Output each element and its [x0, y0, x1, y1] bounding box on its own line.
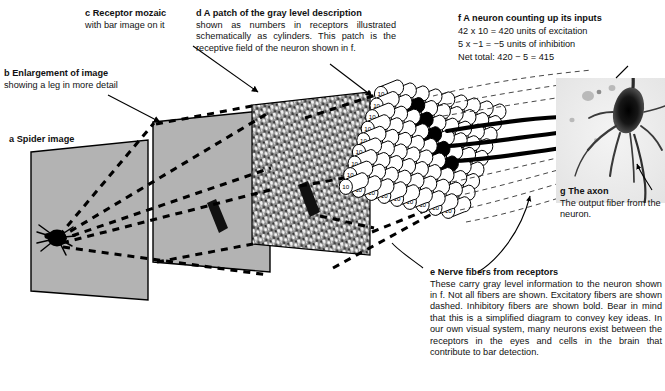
caption-e: e Nerve fibers from receptors These carr…: [430, 267, 662, 358]
caption-d: d A patch of the gray level description …: [196, 8, 396, 54]
callout-e-arrow: [478, 196, 530, 272]
caption-b-heading: b Enlargement of image: [4, 68, 169, 80]
callout-e-arrow-left: [392, 243, 423, 268]
caption-g: g The axon The output fiber from the neu…: [560, 186, 665, 221]
caption-f-line3: Net total: 420 − 5 = 415: [458, 51, 658, 64]
caption-e-heading: e Nerve fibers from receptors: [430, 267, 662, 279]
caption-f-line2: 5 x −1 = −5 units of inhibition: [458, 38, 658, 51]
caption-b: b Enlargement of image showing a leg in …: [4, 68, 169, 91]
caption-a-heading: a Spider image: [9, 134, 159, 146]
caption-d-body: shown as numbers in receptors illustrate…: [196, 20, 396, 55]
caption-a: a Spider image: [9, 134, 159, 146]
caption-g-body: The output fiber from the neuron.: [560, 198, 665, 221]
panel-a-spider-image: [31, 140, 148, 300]
figure-canvas: 1010101010101010101010101010101101010101…: [0, 0, 665, 391]
caption-f: f A neuron counting up its inputs 42 x 1…: [458, 13, 658, 64]
caption-g-heading: g The axon: [560, 186, 665, 198]
caption-e-body: These carry gray level information to th…: [430, 279, 662, 359]
caption-b-body: showing a leg in more detail: [4, 80, 169, 92]
caption-f-heading: f A neuron counting up its inputs: [458, 13, 658, 25]
caption-f-line1: 42 x 10 = 420 units of excitation: [458, 25, 658, 38]
receptor-value: 10: [342, 183, 349, 190]
caption-d-heading: d A patch of the gray level description: [196, 8, 396, 20]
